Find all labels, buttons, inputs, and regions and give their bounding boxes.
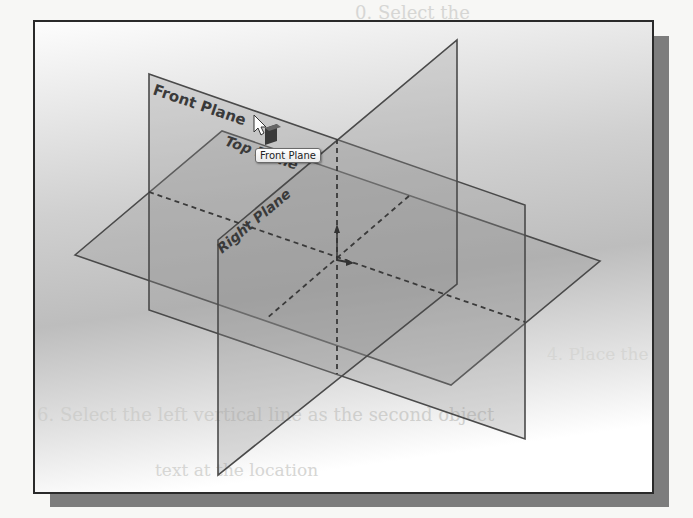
graphics-viewport[interactable]: 4. Place the dimension 6. Select the lef… [33,20,654,494]
plane-scene: Front Plane Top Plane Right Plane [35,22,652,492]
plane-tooltip: Front Plane [255,148,321,163]
